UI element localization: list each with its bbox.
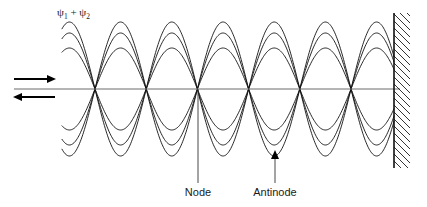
incident-arrow-head [47, 75, 56, 83]
hatch-line [394, 140, 410, 156]
psi-subscript-2: 2 [86, 12, 90, 21]
node-label: Node [185, 186, 211, 198]
reflecting-wall [394, 13, 410, 168]
hatch-line [394, 49, 410, 65]
psi-plus-sign: + [68, 6, 80, 18]
hatch-line [394, 14, 410, 30]
reflected-wave-arrow [13, 93, 55, 101]
hatch-line [394, 154, 408, 168]
incident-wave-arrow [14, 75, 56, 83]
hatch-line [394, 105, 410, 121]
hatch-line [407, 13, 410, 16]
hatch-line [394, 147, 410, 163]
hatch-line [394, 42, 410, 58]
reflected-arrow-head [13, 93, 22, 101]
standing-wave-figure: ψ1 + ψ2 Node Antinode [0, 0, 427, 207]
wall-hatching [394, 13, 410, 168]
hatch-line [394, 126, 410, 142]
hatch-line [394, 35, 410, 51]
hatch-line [394, 21, 410, 37]
hatch-line [394, 161, 401, 168]
hatch-line [394, 84, 410, 100]
hatch-line [394, 63, 410, 79]
antinode-label: Antinode [253, 186, 296, 198]
hatch-line [394, 112, 410, 128]
hatch-line [394, 91, 410, 107]
hatch-line [394, 70, 410, 86]
hatch-line [394, 133, 410, 149]
hatch-line [394, 98, 410, 114]
hatch-line [394, 119, 410, 135]
hatch-line [394, 77, 410, 93]
figure-canvas: ψ1 + ψ2 Node Antinode [0, 0, 427, 207]
psi-sum-label: ψ1 + ψ2 [57, 6, 90, 21]
hatch-line [394, 56, 410, 72]
hatch-line [394, 28, 410, 44]
